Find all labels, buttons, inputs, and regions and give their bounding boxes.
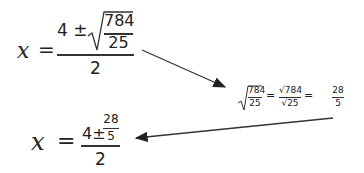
equals-sign: = [57, 128, 75, 153]
sqrt-numerator: 784 [248, 85, 262, 95]
equals-sign: = [266, 89, 275, 102]
variable-x: x [31, 128, 45, 156]
result-numerator: 28 [332, 85, 344, 95]
sqrt-icon [0, 0, 364, 173]
root-denominator: √25 [279, 98, 301, 108]
equals-sign: = [304, 89, 313, 102]
main-fraction-bar [81, 145, 120, 147]
fraction-numerator: 28 [103, 112, 119, 126]
denominator: 2 [81, 149, 120, 169]
root-numerator: √784 [279, 85, 301, 95]
fraction-denominator: 5 [103, 129, 119, 143]
sqrt-denominator: 25 [248, 98, 262, 108]
result-denominator: 5 [332, 98, 344, 108]
